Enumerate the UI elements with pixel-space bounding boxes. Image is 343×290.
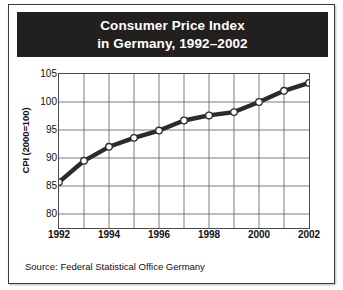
- chart-title-line-1: Consumer Price Index: [100, 17, 245, 35]
- x-tick-label: 1996: [148, 229, 170, 240]
- data-point: [181, 117, 188, 124]
- data-point: [106, 144, 113, 151]
- x-tick-label: 2000: [248, 229, 270, 240]
- data-point: [306, 80, 309, 87]
- chart-title-line-2: in Germany, 1992–2002: [97, 35, 247, 53]
- data-point: [231, 109, 238, 116]
- chart-title-band: Consumer Price Index in Germany, 1992–20…: [17, 12, 328, 57]
- data-point: [59, 179, 62, 186]
- source-note: Source: Federal Statistical Office Germa…: [25, 261, 205, 272]
- plot-area-wrapper: CPI (2000=100) 80859095100105 1992199419…: [9, 57, 334, 284]
- x-tick-label: 1994: [98, 229, 120, 240]
- y-tick-label: 90: [27, 152, 57, 163]
- data-point: [156, 127, 163, 134]
- data-point: [256, 99, 263, 106]
- x-tick-label: 1992: [48, 229, 70, 240]
- y-tick-label: 85: [27, 180, 57, 191]
- y-axis-ticks: 80859095100105: [27, 57, 57, 284]
- data-point: [131, 135, 138, 142]
- plot-canvas: [58, 73, 310, 229]
- x-tick-label: 2002: [298, 229, 320, 240]
- x-tick-label: 1998: [198, 229, 220, 240]
- line-chart-svg: [59, 74, 309, 228]
- y-tick-label: 105: [27, 68, 57, 79]
- y-tick-label: 95: [27, 124, 57, 135]
- data-point: [281, 88, 288, 95]
- x-axis-ticks: 199219941996199820002002: [9, 229, 334, 245]
- y-tick-label: 80: [27, 208, 57, 219]
- data-point: [206, 112, 213, 119]
- y-tick-label: 100: [27, 96, 57, 107]
- data-point: [81, 158, 88, 165]
- chart-figure: Consumer Price Index in Germany, 1992–20…: [8, 4, 335, 284]
